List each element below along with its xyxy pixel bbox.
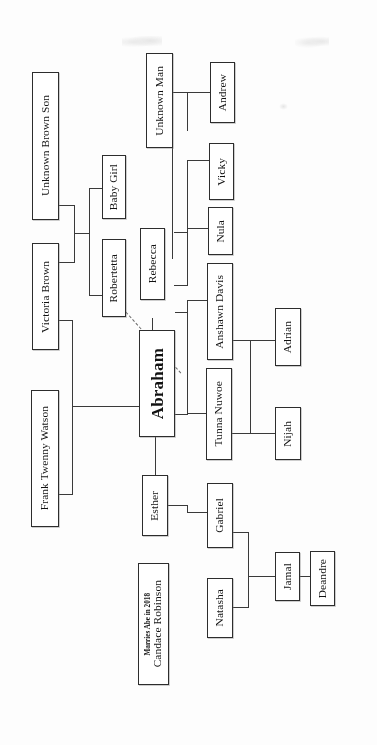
node-nijah[interactable]: Nijah <box>275 407 301 460</box>
node-candace-robinson[interactable]: Candace Robinson Marries Abe in 2018 <box>138 563 169 685</box>
node-gabriel[interactable]: Gabriel <box>207 483 233 548</box>
connector-line <box>89 188 90 295</box>
node-label: Deandre <box>317 559 328 598</box>
connector-line <box>172 131 173 259</box>
node-baby-girl[interactable]: Baby Girl <box>102 155 126 219</box>
node-deandre[interactable]: Deandre <box>310 551 335 606</box>
node-label: Nula <box>215 220 226 243</box>
connector-line <box>59 205 75 206</box>
connector-line <box>59 320 73 321</box>
connector-line <box>248 576 276 577</box>
connector-line <box>250 340 276 341</box>
connector-line <box>187 92 210 93</box>
connector-line <box>187 300 208 301</box>
node-candace-robinson-content: Candace Robinson Marries Abe in 2018 <box>144 580 164 667</box>
node-label: Robertetta <box>108 254 119 302</box>
node-tunna-nuwoe[interactable]: Tunna Nuwoe <box>206 368 232 460</box>
connector-line <box>232 433 251 434</box>
scan-artifact <box>295 36 329 48</box>
node-label: Unknown Brown Son <box>40 95 51 196</box>
node-label: Tunna Nuwoe <box>213 381 224 447</box>
connector-line <box>74 233 90 234</box>
connector-line <box>89 295 102 296</box>
node-unknown-brown-son[interactable]: Unknown Brown Son <box>32 72 59 220</box>
connector-line <box>187 413 208 414</box>
node-label: Abraham <box>149 348 166 419</box>
node-robertetta[interactable]: Robertetta <box>102 239 126 317</box>
node-natasha[interactable]: Natasha <box>207 578 233 638</box>
connector-line <box>187 92 188 131</box>
node-vicky[interactable]: Vicky <box>209 143 234 200</box>
node-label: Unknown Man <box>154 66 165 136</box>
node-label: Frank Twenny Watson <box>39 406 50 510</box>
node-abraham[interactable]: Abraham <box>139 330 175 437</box>
node-victoria-brown[interactable]: Victoria Brown <box>32 243 59 350</box>
node-label: Natasha <box>214 589 225 626</box>
connector-line <box>89 188 102 189</box>
node-adrian[interactable]: Adrian <box>275 308 301 366</box>
node-note: Marries Abe in 2018 <box>145 593 152 655</box>
node-label: Candace Robinson <box>152 580 163 667</box>
connector-line <box>187 160 209 161</box>
connector-line <box>72 406 140 407</box>
connector-line <box>59 262 75 263</box>
connector-line <box>59 494 73 495</box>
scan-artifact <box>279 103 288 110</box>
node-label: Rebecca <box>147 244 158 283</box>
connector-line <box>187 228 209 229</box>
connector-line <box>187 160 188 285</box>
node-label: Anshawn Davis <box>214 275 225 349</box>
connector-line <box>174 285 188 286</box>
connector-line <box>250 340 251 433</box>
node-label: Esther <box>149 491 160 521</box>
node-andrew[interactable]: Andrew <box>210 62 235 123</box>
connector-line <box>172 92 188 93</box>
connector-line <box>174 232 188 233</box>
connector-line <box>232 340 251 341</box>
node-frank-twenny-watson[interactable]: Frank Twenny Watson <box>31 390 59 527</box>
node-label: Andrew <box>217 74 228 111</box>
family-tree-canvas: Unknown Brown Son Victoria Brown Frank T… <box>0 0 377 745</box>
connector-line <box>248 532 249 607</box>
connector-line <box>187 300 188 414</box>
node-label: Jamal <box>282 563 293 590</box>
node-label: Vicky <box>216 158 227 186</box>
connector-line <box>72 320 73 495</box>
node-label: Victoria Brown <box>40 261 51 333</box>
node-label: Nijah <box>282 421 293 447</box>
node-label: Baby Girl <box>108 164 119 210</box>
node-nula[interactable]: Nula <box>208 207 233 255</box>
connector-line <box>250 433 276 434</box>
node-label: Gabriel <box>214 498 225 533</box>
connector-line <box>232 607 249 608</box>
node-anshawn-davis[interactable]: Anshawn Davis <box>207 263 233 360</box>
connector-line <box>168 505 188 506</box>
node-jamal[interactable]: Jamal <box>275 552 300 601</box>
node-unknown-man[interactable]: Unknown Man <box>146 53 173 148</box>
node-rebecca[interactable]: Rebecca <box>140 228 165 300</box>
connector-line <box>155 437 156 479</box>
scan-artifact <box>122 36 162 48</box>
connector-line <box>232 532 249 533</box>
node-label: Adrian <box>282 321 293 353</box>
connector-line <box>175 414 188 415</box>
connector-line <box>187 512 208 513</box>
node-esther[interactable]: Esther <box>142 475 168 536</box>
